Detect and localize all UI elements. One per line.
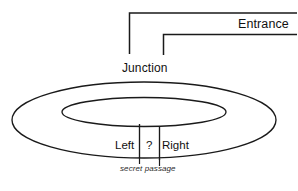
label-right-branch: Right xyxy=(162,140,189,152)
label-question-branch: ? xyxy=(146,140,152,152)
maze-diagram: Entrance Junction Left ? Right secret pa… xyxy=(0,0,298,191)
inner-ring-wall xyxy=(62,98,226,127)
label-secret-passage: secret passage xyxy=(120,165,176,173)
outer-ring-wall xyxy=(12,82,276,158)
entrance-corridor-inner-wall xyxy=(164,35,298,56)
label-junction: Junction xyxy=(122,62,168,74)
label-entrance: Entrance xyxy=(238,18,289,31)
label-left-branch: Left xyxy=(115,140,134,152)
